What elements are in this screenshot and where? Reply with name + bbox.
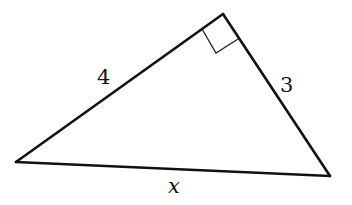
right-angle-marker-icon [202, 29, 238, 53]
left-leg-edge [16, 14, 223, 162]
left-leg-label: 4 [97, 65, 110, 89]
hypotenuse-label: x [168, 174, 180, 198]
right-leg-label: 3 [280, 73, 293, 97]
right-leg-edge [223, 14, 330, 176]
right-triangle-diagram: 4 3 x [0, 0, 352, 205]
